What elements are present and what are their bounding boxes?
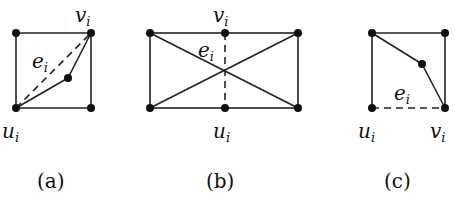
- caption-a: (a): [37, 169, 65, 193]
- edge-interior-to-v: [68, 33, 91, 78]
- caption-c: (c): [384, 169, 411, 193]
- vertex: [12, 29, 20, 37]
- edge-corner-to-interior: [372, 33, 422, 64]
- vertex-interior: [64, 74, 72, 82]
- panel-a: vi ui ei (a): [2, 3, 95, 193]
- vertex: [441, 29, 449, 37]
- dashed-edge-e: [16, 33, 91, 108]
- vertex-v: [441, 104, 449, 112]
- edge-interior-to-v: [422, 64, 445, 108]
- vertex-u: [12, 104, 20, 112]
- vertex-u: [368, 104, 376, 112]
- panel-b: vi ui ei (b): [146, 3, 302, 193]
- caption-b: (b): [206, 169, 234, 193]
- vertex-interior: [418, 60, 426, 68]
- label-e: ei: [32, 49, 48, 75]
- vertex: [368, 29, 376, 37]
- label-v: vi: [213, 3, 228, 29]
- label-e: ei: [394, 81, 410, 107]
- label-v: vi: [75, 3, 90, 29]
- label-u: ui: [358, 119, 375, 145]
- label-v: vi: [430, 119, 445, 145]
- vertex-u: [221, 104, 229, 112]
- label-u: ui: [2, 119, 19, 145]
- vertex: [294, 29, 302, 37]
- vertex: [146, 29, 154, 37]
- label-u: ui: [213, 119, 230, 145]
- vertex-v: [87, 29, 95, 37]
- vertex-v: [221, 29, 229, 37]
- panel-c: ui vi ei (c): [358, 29, 449, 193]
- vertex: [87, 104, 95, 112]
- figure-canvas: vi ui ei (a) vi ui ei (b) ui vi ei: [0, 0, 455, 200]
- vertex: [294, 104, 302, 112]
- label-e: ei: [198, 38, 214, 64]
- vertex: [146, 104, 154, 112]
